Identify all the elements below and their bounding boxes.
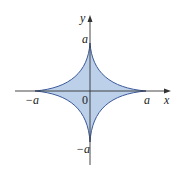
astroid-plot — [0, 0, 181, 177]
top-intercept-label: a — [82, 33, 88, 45]
origin-label: 0 — [82, 94, 88, 106]
x-axis-label: x — [164, 94, 169, 106]
astroid-diagram: y a −a 0 a x −a — [0, 0, 181, 177]
bottom-intercept-label: −a — [76, 143, 90, 155]
left-intercept-label: −a — [25, 94, 39, 106]
astroid-region — [35, 43, 146, 142]
y-axis-label: y — [80, 12, 85, 24]
right-intercept-label: a — [144, 94, 150, 106]
y-axis-arrow-icon — [88, 15, 93, 22]
